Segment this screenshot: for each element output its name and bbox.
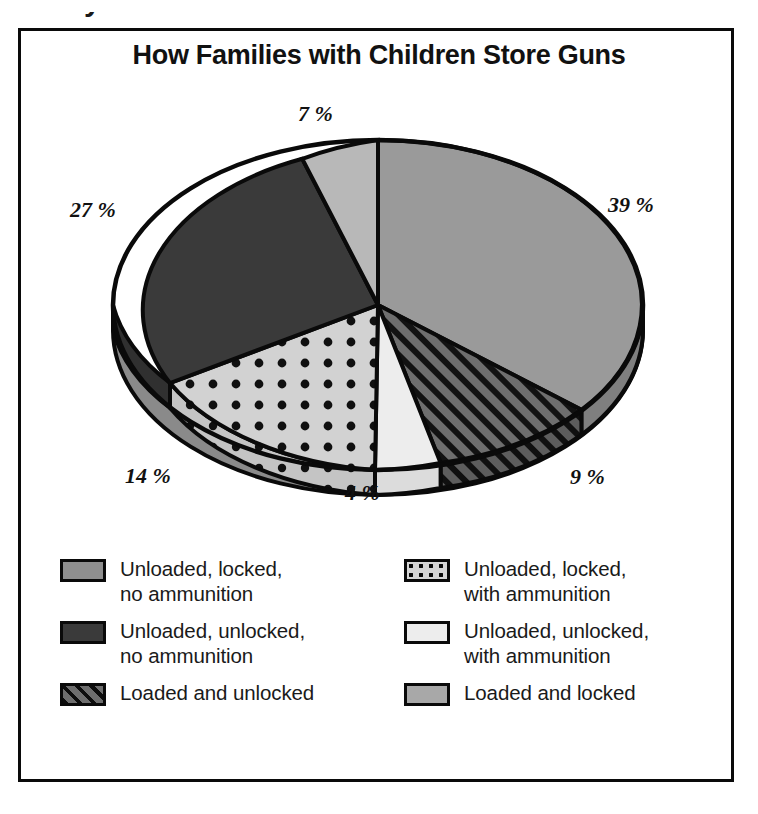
legend-item-loaded-and-unlocked[interactable]: Loaded and unlocked — [60, 680, 404, 706]
pie-label-14-percent: 14 % — [125, 463, 171, 489]
legend-label-line2: with ammunition — [464, 582, 611, 605]
pie-label-4-percent: 4 % — [345, 480, 380, 506]
legend-label-loaded-and-unlocked: Loaded and unlocked — [120, 680, 314, 705]
chart-legend: Unloaded, locked, no ammunition Unloaded… — [60, 556, 706, 742]
legend-label-line1: Unloaded, locked, — [120, 557, 282, 580]
legend-item-unloaded-locked-with-ammunition[interactable]: Unloaded, locked, with ammunition — [404, 556, 706, 606]
legend-label-line1: Unloaded, unlocked, — [120, 619, 305, 642]
legend-label-line1: Unloaded, locked, — [464, 557, 626, 580]
legend-swatch-dark-gray — [60, 621, 106, 644]
legend-label-unloaded-unlocked-no-ammunition: Unloaded, unlocked, no ammunition — [120, 618, 305, 668]
legend-label-loaded-and-locked: Loaded and locked — [464, 680, 636, 705]
legend-swatch-dotted — [404, 559, 450, 582]
legend-item-loaded-and-locked[interactable]: Loaded and locked — [404, 680, 706, 706]
legend-label-line2: no ammunition — [120, 582, 253, 605]
legend-label-unloaded-unlocked-with-ammunition: Unloaded, unlocked, with ammunition — [464, 618, 649, 668]
pie-label-7-percent: 7 % — [298, 101, 333, 127]
legend-swatch-hatched — [60, 683, 106, 706]
legend-label-line2: with ammunition — [464, 644, 611, 667]
legend-label-line2: no ammunition — [120, 644, 253, 667]
legend-item-unloaded-locked-no-ammunition[interactable]: Unloaded, locked, no ammunition — [60, 556, 404, 606]
pie-label-27-percent: 27 % — [70, 197, 116, 223]
legend-swatch-light-gray — [404, 621, 450, 644]
pie-svg — [0, 0, 758, 530]
legend-item-unloaded-unlocked-no-ammunition[interactable]: Unloaded, unlocked, no ammunition — [60, 618, 404, 668]
legend-label-unloaded-locked-no-ammunition: Unloaded, locked, no ammunition — [120, 556, 282, 606]
chart-canvas: y How Families with Children Store Guns — [0, 0, 758, 814]
legend-item-unloaded-unlocked-with-ammunition[interactable]: Unloaded, unlocked, with ammunition — [404, 618, 706, 668]
pie-label-9-percent: 9 % — [570, 464, 605, 490]
legend-swatch-loaded-locked-gray — [404, 683, 450, 706]
legend-label-line1: Unloaded, unlocked, — [464, 619, 649, 642]
pie-label-39-percent: 39 % — [608, 192, 654, 218]
pie-chart-graphic — [0, 0, 758, 530]
legend-label-unloaded-locked-with-ammunition: Unloaded, locked, with ammunition — [464, 556, 626, 606]
legend-swatch-mid-gray — [60, 559, 106, 582]
